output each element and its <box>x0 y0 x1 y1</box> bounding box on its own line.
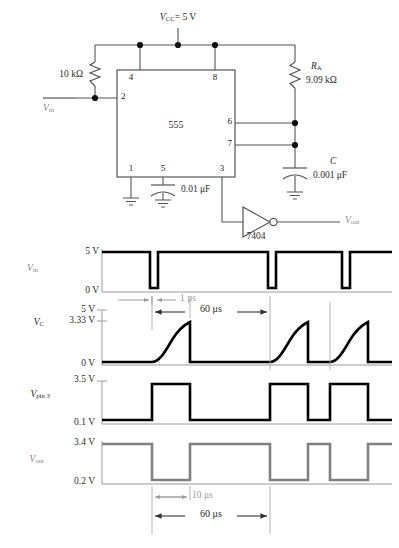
waveform-label-v-in: Vin <box>27 264 38 274</box>
tick-v-out-low: 0.2 V <box>74 477 95 487</box>
resistor-ra-symbol <box>290 62 300 88</box>
terminal-vin-sub: in <box>49 106 54 113</box>
waveform-label-v-c-sub: C <box>39 320 44 327</box>
terminal-vout-label: Vout <box>345 216 360 226</box>
waveform-label-v-pin3-sub: pin 3 <box>36 392 50 399</box>
annotation-period-bottom-label: 60 μs <box>200 509 222 519</box>
waveform-v-pin3-trace <box>102 384 392 420</box>
pin-8-label: 8 <box>213 73 218 82</box>
supply-label-eq: = 5 V <box>175 12 197 22</box>
ground-symbols <box>123 192 303 207</box>
tick-v-in-high: 5 V <box>85 247 99 257</box>
waveform-label-v-out-sub: out <box>35 457 44 464</box>
pin-4-label: 4 <box>129 73 134 82</box>
ic-555-label: 555 <box>169 120 184 130</box>
waveform-v-c-trace <box>102 322 392 362</box>
tick-v-c-0v: 0 V <box>81 359 95 369</box>
capacitor-control-value: 0.01 μF <box>181 185 210 195</box>
tick-v-pin3-high: 3.5 V <box>74 375 95 385</box>
tick-v-c-threshold: 3.33 V <box>69 316 95 326</box>
figure-555-monostable: VCC= 5 V 10 kΩ RA 9.09 kΩ C 0.001 μF 0.0… <box>0 0 399 548</box>
waveform-axes <box>97 249 392 484</box>
capacitor-c-name-text: C <box>330 156 336 166</box>
annotation-trigger-width-label: 1 μs <box>180 294 196 304</box>
resistor-10k-label: 10 kΩ <box>59 70 83 80</box>
annotation-period-top-label: 60 μs <box>200 304 222 314</box>
pin-5-label: 5 <box>161 164 166 173</box>
resistor-ra-name: RA <box>311 62 322 72</box>
supply-label: VCC= 5 V <box>160 13 196 23</box>
pin-7-label: 7 <box>228 139 233 148</box>
pin-2-label: 2 <box>121 92 126 101</box>
inverter-7404-label: 7404 <box>247 232 266 242</box>
waveform-label-v-in-sub: in <box>33 266 38 273</box>
figure-graphics <box>0 0 399 548</box>
waveform-label-v-c: VC <box>34 318 44 328</box>
pin-3-label: 3 <box>220 164 225 173</box>
annotation-trigger-width-arrows <box>118 296 176 305</box>
tick-v-in-low: 0 V <box>85 286 99 296</box>
capacitor-c-value: 0.001 μF <box>313 171 347 181</box>
terminal-vin-label: Vin <box>43 104 54 114</box>
resistor-ra-value: 9.09 kΩ <box>306 76 337 86</box>
terminal-vout-sub: out <box>351 218 360 225</box>
annotation-pulse-width-label: 10 μs <box>192 491 213 501</box>
waveform-label-v-out: Vout <box>30 455 45 465</box>
capacitor-c-name: C <box>330 157 336 167</box>
resistor-10k-symbol <box>90 62 100 86</box>
pin-1-label: 1 <box>129 164 134 173</box>
pin-6-label: 6 <box>228 117 233 126</box>
resistor-ra-name-sub: A <box>317 64 322 71</box>
tick-v-out-high: 3.4 V <box>74 438 95 448</box>
waveform-v-out-trace <box>102 444 392 480</box>
waveform-label-v-pin3: Vpin 3 <box>30 390 50 400</box>
waveform-v-in-trace <box>102 252 392 288</box>
tick-v-pin3-low: 0.1 V <box>74 418 95 428</box>
tick-v-c-5v: 5 V <box>81 305 95 315</box>
supply-label-sub: CC <box>166 15 175 22</box>
